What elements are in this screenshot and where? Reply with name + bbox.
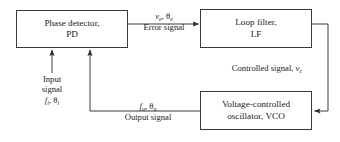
block-voltage-controlled-oscillator: Voltage-controlled oscillator, VCO	[200, 91, 312, 130]
error-symbol-v-subscript: e	[159, 15, 162, 22]
controlled-signal-text: Controlled signal,	[232, 63, 296, 73]
block-phase-detector-line2: PD	[66, 29, 78, 41]
output-symbol-f-subscript: o	[142, 105, 145, 112]
output-symbol-theta-subscript: o	[153, 105, 156, 112]
block-phase-detector-line1: Phase detector,	[44, 18, 99, 30]
label-output-signal-text: Output signal	[110, 112, 186, 122]
label-input-symbols: fi, θi	[28, 95, 76, 106]
pll-block-diagram: Phase detector, PD Loop filter, LF Volta…	[0, 0, 340, 142]
block-vco-line2: oscillator, VCO	[227, 111, 285, 123]
label-input-signal: Input signal fi, θi	[28, 74, 76, 106]
error-symbol-theta-subscript: e	[170, 15, 173, 22]
block-phase-detector: Phase detector, PD	[16, 10, 128, 48]
block-vco-line1: Voltage-controlled	[222, 99, 290, 111]
controlled-symbol-v-subscript: c	[299, 67, 302, 74]
label-error-symbols: ve, θe	[130, 11, 198, 22]
input-symbol-theta-subscript: i	[57, 99, 59, 106]
label-output-symbols: fo, θo	[110, 101, 186, 112]
label-input-line1: Input	[28, 74, 76, 84]
block-loop-filter-line2: LF	[251, 29, 262, 41]
label-controlled-signal-row: Controlled signal, vc	[212, 63, 322, 74]
label-input-line2: signal	[28, 84, 76, 94]
label-controlled-signal: Controlled signal, vc	[212, 63, 322, 74]
label-output-signal: fo, θo Output signal	[110, 101, 186, 123]
block-loop-filter-line1: Loop filter,	[235, 17, 276, 29]
label-error-signal: ve, θe Error signal	[130, 11, 198, 33]
input-symbol-f-subscript: i	[47, 99, 49, 106]
block-loop-filter: Loop filter, LF	[200, 9, 312, 48]
label-error-signal-text: Error signal	[130, 22, 198, 32]
